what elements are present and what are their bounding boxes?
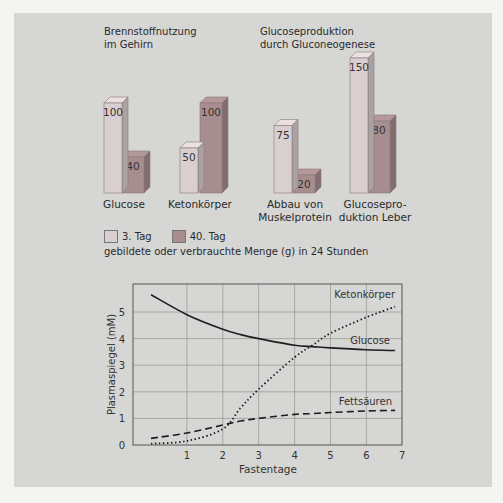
legend-swatch-day40 <box>172 230 186 243</box>
bar-value-label: 20 <box>297 178 310 190</box>
category-label-line: Abbau von <box>255 198 335 211</box>
category-label-ketone: Ketonkörper <box>165 198 235 211</box>
bar-1-0: 50 <box>180 142 204 193</box>
bar-value-label: 150 <box>349 61 369 73</box>
bar-value-label: 100 <box>103 106 123 118</box>
bar-value-label: 80 <box>372 124 385 136</box>
category-label-line: Muskelprotein <box>255 211 335 224</box>
bar-value-label: 75 <box>276 129 289 141</box>
legend-label-day40: 40. Tag <box>190 231 226 242</box>
category-label-line: Ketonkörper <box>165 198 235 211</box>
legend-swatch-day3 <box>104 230 118 243</box>
category-label-liver: Glucosepro- duktion Leber <box>335 198 415 224</box>
category-label-line: Glucose <box>94 198 154 211</box>
bar-value-label: 100 <box>201 106 221 118</box>
bar-caption: gebildete oder verbrauchte Menge (g) in … <box>104 246 368 257</box>
category-label-line: Glucosepro- <box>335 198 415 211</box>
category-label-line: duktion Leber <box>335 211 415 224</box>
bar-value-label: 50 <box>182 151 195 163</box>
category-label-glucose: Glucose <box>94 198 154 211</box>
bar-chart: 4010020801005075150 <box>0 0 503 210</box>
category-label-muscle: Abbau von Muskelprotein <box>255 198 335 224</box>
bar-3-0: 150 <box>349 52 374 193</box>
legend-label-day3: 3. Tag <box>122 231 152 242</box>
legend: 3. Tag 40. Tag <box>104 230 226 243</box>
bar-0-0: 100 <box>103 97 128 193</box>
bar-2-0: 75 <box>274 120 298 194</box>
bar-value-label: 40 <box>126 160 139 172</box>
